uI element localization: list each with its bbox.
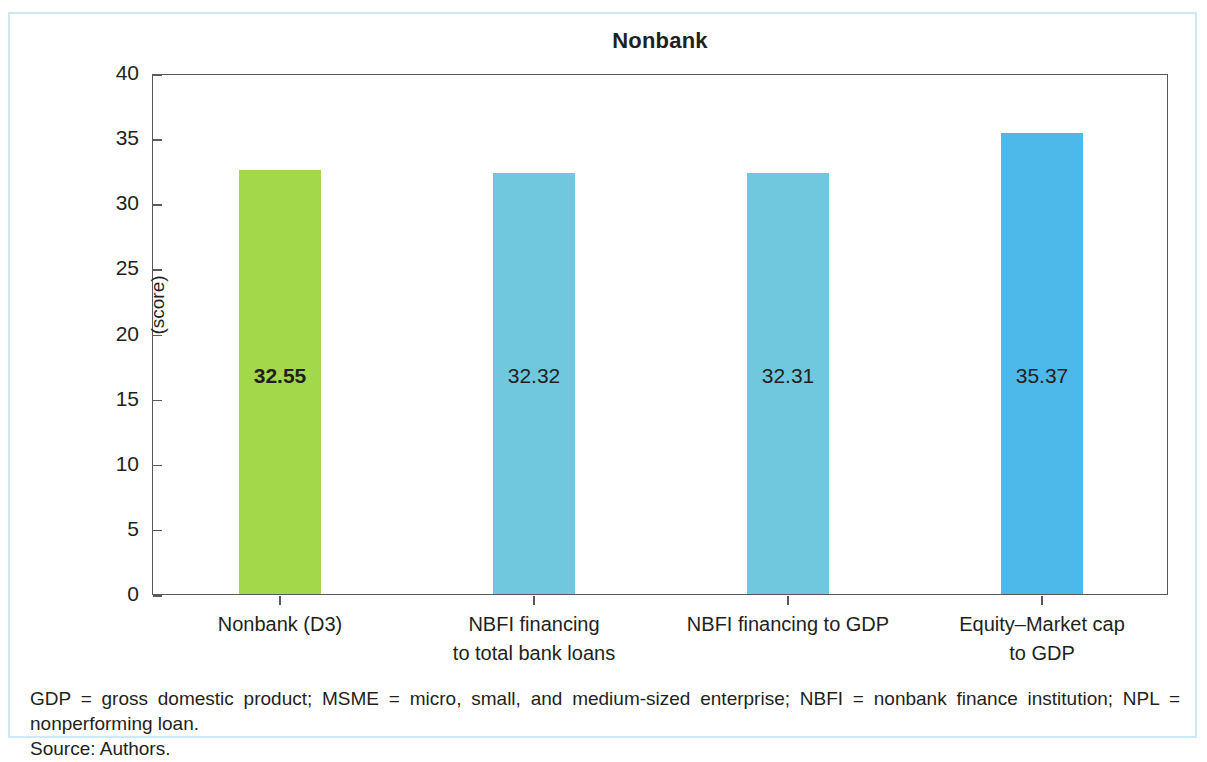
bar-value-label: 35.37	[1001, 364, 1083, 388]
y-tick-mark	[153, 595, 162, 597]
x-axis-label-line: Nonbank (D3)	[153, 610, 407, 639]
bar-value-label: 32.55	[239, 364, 321, 388]
x-axis-label-1: Nonbank (D3)	[153, 610, 407, 639]
x-axis-label-line: NBFI financing to GDP	[661, 610, 915, 639]
y-tick-label: 15	[116, 387, 139, 411]
y-tick-label: 30	[116, 191, 139, 215]
chart-figure: Nonbank (score) 0510152025303540 32.5532…	[0, 0, 1207, 762]
note-abbreviations: GDP = gross domestic product; MSME = mic…	[30, 686, 1180, 736]
x-axis-label-line: Equity–Market cap	[915, 610, 1169, 639]
y-tick-mark	[153, 335, 162, 337]
y-tick-label: 10	[116, 452, 139, 476]
note-source: Source: Authors.	[30, 736, 1180, 761]
y-axis-title: (score)	[147, 245, 169, 365]
x-axis-label-2: NBFI financingto total bank loans	[407, 610, 661, 668]
y-tick-mark	[153, 465, 162, 467]
figure-notes: GDP = gross domestic product; MSME = mic…	[30, 686, 1180, 761]
chart-title: Nonbank	[180, 28, 1140, 54]
bar-value-label: 32.32	[493, 364, 575, 388]
y-tick-label: 20	[116, 322, 139, 346]
x-tick-mark	[279, 596, 281, 605]
y-tick-label: 0	[127, 582, 139, 606]
bar-4: 35.37	[1001, 133, 1083, 594]
x-tick-mark	[1041, 596, 1043, 605]
y-tick-mark	[153, 269, 162, 271]
bar-value-label: 32.31	[747, 364, 829, 388]
y-tick-label: 40	[116, 61, 139, 85]
x-axis-label-line: to GDP	[915, 639, 1169, 668]
y-tick-mark	[153, 74, 162, 76]
bar-2: 32.32	[493, 173, 575, 594]
x-tick-mark	[533, 596, 535, 605]
x-axis-label-line: NBFI financing	[407, 610, 661, 639]
y-tick-mark	[153, 530, 162, 532]
plot-area: (score) 0510152025303540 32.5532.3232.31…	[152, 74, 1168, 595]
y-tick-mark	[153, 400, 162, 402]
y-tick-mark	[153, 204, 162, 206]
bar-3: 32.31	[747, 173, 829, 594]
x-axis-label-line: to total bank loans	[407, 639, 661, 668]
y-tick-label: 5	[127, 517, 139, 541]
bar-1: 32.55	[239, 170, 321, 594]
x-axis-label-4: Equity–Market capto GDP	[915, 610, 1169, 668]
y-tick-label: 25	[116, 256, 139, 280]
y-tick-label: 35	[116, 126, 139, 150]
x-tick-mark	[787, 596, 789, 605]
y-tick-mark	[153, 139, 162, 141]
x-axis-label-3: NBFI financing to GDP	[661, 610, 915, 639]
